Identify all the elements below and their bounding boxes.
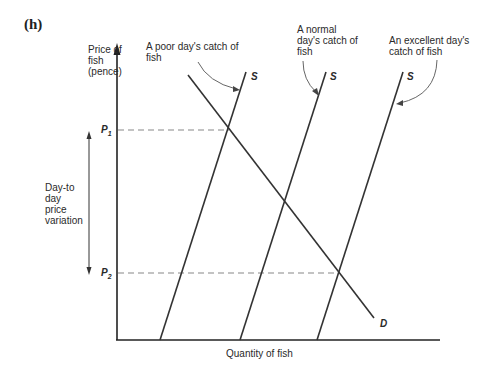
y-axis-label-line: Price of — [88, 44, 122, 55]
variation-label-line: price — [45, 204, 83, 215]
demand-label: D — [380, 318, 387, 329]
y-axis-label: Price of fish (pence) — [88, 44, 122, 77]
p1-text: P — [101, 124, 108, 135]
normal-pointer-arrow — [303, 61, 316, 92]
supply-curve-poor — [160, 72, 246, 340]
supply-label-normal: S — [330, 71, 337, 82]
poor-pointer-arrowhead-icon — [233, 86, 240, 92]
p2-label: P2 — [101, 267, 112, 282]
poor-pointer-arrow — [198, 62, 236, 89]
normal-catch-annotation: A normal day's catch of fish — [297, 24, 358, 57]
p1-subscript: 1 — [108, 130, 112, 137]
supply-label-excellent: S — [407, 71, 414, 82]
annotation-line: fish — [297, 46, 358, 57]
supply-curve-normal — [240, 72, 326, 340]
annotation-line: A normal — [297, 24, 358, 35]
variation-label-line: Day-to — [45, 182, 83, 193]
y-axis-label-line: fish — [88, 55, 122, 66]
excellent-catch-annotation: An excellent day's catch of fish — [389, 35, 469, 57]
p2-subscript: 2 — [108, 273, 112, 280]
excellent-pointer-arrowhead-icon — [396, 100, 403, 106]
variation-arrow-up-icon — [87, 131, 92, 139]
p2-text: P — [101, 267, 108, 278]
annotation-line: An excellent day's — [389, 35, 469, 46]
supply-label-poor: S — [251, 71, 258, 82]
poor-catch-annotation: A poor day's catch of fish — [146, 41, 239, 63]
variation-arrow-down-icon — [87, 267, 92, 275]
x-axis-label: Quantity of fish — [226, 348, 293, 359]
excellent-pointer-arrow — [400, 60, 437, 103]
variation-label: Day-to day price variation — [45, 182, 83, 226]
annotation-line: catch of fish — [389, 46, 469, 57]
variation-label-line: day — [45, 193, 83, 204]
annotation-line: fish — [146, 52, 239, 63]
variation-label-line: variation — [45, 215, 83, 226]
demand-curve — [188, 75, 374, 318]
annotation-line: A poor day's catch of — [146, 41, 239, 52]
annotation-line: day's catch of — [297, 35, 358, 46]
p1-label: P1 — [101, 124, 112, 139]
y-axis-label-line: (pence) — [88, 66, 122, 77]
